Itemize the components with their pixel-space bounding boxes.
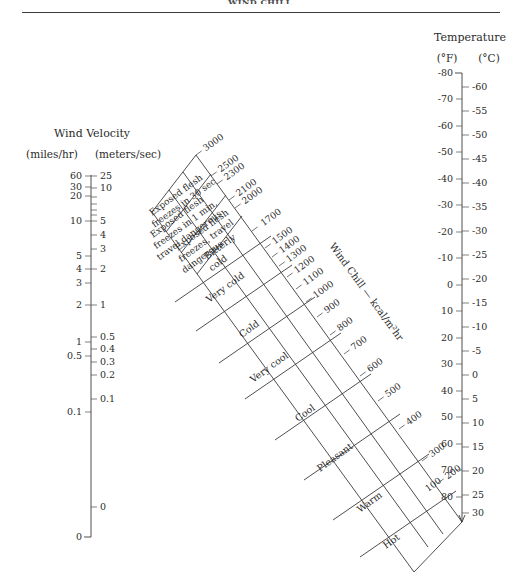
wind-velocity-unit-left: (miles/hr) [26,148,78,160]
wc-tick: 500 [383,381,403,399]
temperature-unit-f: (°F) [437,52,458,64]
wc-tick: 900 [322,297,342,315]
wv-right-tick: 0 [100,501,106,512]
wc-tick: 600 [365,356,385,374]
temp-c-tick: -25 [472,249,487,260]
wind-velocity-unit-right: (meters/sec) [95,148,161,160]
wv-right-ticks: 25 10 5 4 3 2 1 0.5 0.4 [91,170,115,512]
wv-right-tick: 0.1 [100,393,115,404]
band-label: Hot [381,531,402,550]
temp-c-tick: 0 [472,369,478,380]
temp-f-tick: 40 [441,385,453,396]
temp-f-tick: -70 [438,93,453,104]
temp-c-tick: -55 [472,105,487,116]
nomogram-body: 3000 2500 2300 2100 2000 [142,131,463,572]
wv-left-tick: 20 [70,190,82,201]
temp-c-tick: -15 [472,297,487,308]
wv-left-tick: 4 [76,263,82,274]
axis-wind-velocity: Wind Velocity (miles/hr) (meters/sec) 60… [26,127,161,542]
temp-c-tick: 25 [472,489,484,500]
wv-left-tick: 2 [76,299,82,310]
temp-f-tick: 0 [447,279,453,290]
temp-c-tick: 30 [472,507,484,518]
wv-left-tick: 10 [70,215,82,226]
temp-f-ticks: -80 -70 -60 -50 -40 -30 -20 -10 0 10 [438,67,462,502]
wv-right-tick: 4 [100,229,106,240]
wv-left-tick: 0.1 [67,406,82,417]
wv-right-tick: 2 [100,263,106,274]
wv-right-tick: 3 [100,243,106,254]
temperature-unit-c: (°C) [478,52,499,64]
temp-c-tick: 15 [472,441,484,452]
wv-right-tick: 1 [100,299,106,310]
temp-c-tick: -35 [472,201,487,212]
wv-right-tick: 10 [100,182,112,193]
temp-f-tick: -50 [438,146,453,157]
wv-left-tick: 5 [76,250,82,261]
temp-f-tick: 10 [441,305,453,316]
wv-left-tick: 0.5 [67,350,82,361]
temperature-title: Temperature [434,31,506,44]
wind-chill-ticks: 3000 2500 2300 2100 2000 [193,131,463,493]
wc-tick: 700 [349,334,369,352]
wv-left-tick: 0 [76,531,82,542]
wv-left-ticks: 60 30 20 10 5 4 3 2 1 0.5 0.1 [67,170,91,542]
temp-c-tick: -45 [472,153,487,164]
temp-f-tick: -20 [438,226,453,237]
temp-c-tick: -40 [472,177,487,188]
wv-right-tick: 25 [100,170,112,181]
temp-c-tick: -60 [472,81,487,92]
figure-page: WIND CHILL Wind Velocity (miles/hr) (met… [0,0,521,587]
temp-c-tick: -50 [472,129,487,140]
wv-right-tick: 0.2 [100,369,115,380]
wv-right-tick: 5 [100,215,106,226]
temp-c-ticks: -60 -55 -50 -45 -40 -35 -30 -25 -20 -15 [462,81,487,518]
wv-left-tick: 3 [76,277,82,288]
band-label: Very cool [247,350,290,386]
wc-tick: 800 [335,315,355,333]
temp-f-tick: 20 [441,332,453,343]
wc-tick: 1000 [311,278,336,300]
temp-c-tick: 20 [472,465,484,476]
temp-f-tick: -40 [438,173,453,184]
wv-left-tick: 1 [76,336,82,347]
temp-f-tick: -60 [438,120,453,131]
temp-f-tick: -80 [438,67,453,78]
temp-c-tick: 5 [472,393,478,404]
wv-right-tick: 0.4 [100,343,115,354]
band-label: Cool [293,402,317,424]
wc-tick: 400 [404,409,424,427]
wind-velocity-title: Wind Velocity [54,127,131,140]
temp-c-tick: -10 [472,321,487,332]
temp-f-tick: -30 [438,199,453,210]
temp-f-tick: 30 [441,358,453,369]
temp-c-tick: -20 [472,273,487,284]
wv-right-tick: 0.3 [100,356,115,367]
temp-f-tick: 50 [441,411,453,422]
wc-tick: 3000 [201,131,226,153]
wv-right-tick: 0.5 [100,331,115,342]
wind-chill-nomogram: Wind Velocity (miles/hr) (meters/sec) 60… [0,0,521,587]
temp-c-tick: 10 [472,417,484,428]
temp-c-tick: -5 [472,345,481,356]
temp-c-tick: -30 [472,225,487,236]
temp-f-tick: -10 [438,252,453,263]
wv-left-tick: 60 [70,170,82,181]
band-label: Pleasant [315,440,355,473]
band-labels: Exposed flesh freezes in 30 sec Exposed … [142,167,402,550]
wc-tick: 1700 [259,206,284,228]
